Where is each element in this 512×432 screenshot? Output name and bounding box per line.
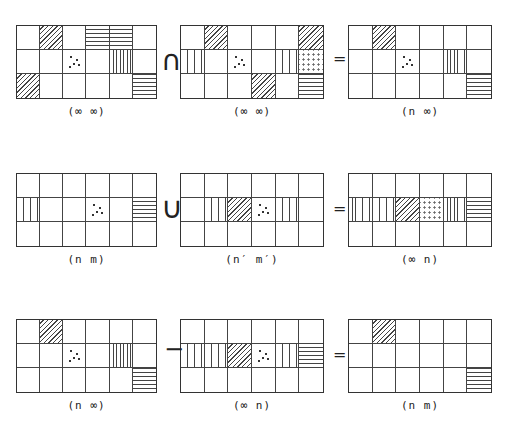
cell-diag-pattern (396, 198, 420, 222)
cell-empty (63, 368, 86, 392)
cell-empty (86, 344, 109, 368)
cell-empty (252, 26, 276, 50)
cell-vert-pattern (276, 198, 300, 222)
cell-empty (349, 174, 373, 198)
cell-empty (17, 50, 40, 74)
set-grid (16, 319, 157, 393)
cell-empty (420, 74, 444, 98)
cell-empty (205, 320, 229, 344)
cell-empty (181, 222, 205, 246)
cell-horiz-pattern (133, 368, 156, 392)
cell-empty (110, 198, 133, 222)
cell-vert-pattern (17, 198, 40, 222)
cell-empty (444, 368, 468, 392)
set-grid (180, 173, 324, 247)
equals-sign: = (333, 49, 346, 68)
cell-empty (110, 368, 133, 392)
cell-empty (373, 222, 397, 246)
cell-dots-pattern (252, 198, 276, 222)
cell-empty (110, 174, 133, 198)
cell-empty (299, 320, 323, 344)
cell-vert-pattern (205, 198, 229, 222)
cell-empty (467, 26, 491, 50)
cell-horiz-pattern (299, 344, 323, 368)
cell-empty (181, 368, 205, 392)
cell-empty (181, 198, 205, 222)
cell-empty (110, 74, 133, 98)
cell-empty (181, 26, 205, 50)
equals-sign: = (333, 345, 346, 364)
set-grid (180, 25, 324, 99)
cell-empty (86, 50, 109, 74)
cell-empty (349, 26, 373, 50)
cell-empty (133, 174, 156, 198)
cell-empty (396, 368, 420, 392)
cell-empty (228, 320, 252, 344)
cell-empty (299, 174, 323, 198)
cell-empty (396, 222, 420, 246)
cell-empty (40, 368, 63, 392)
cell-empty (349, 368, 373, 392)
cell-empty (373, 344, 397, 368)
cell-dots-pattern (252, 344, 276, 368)
cell-empty (444, 174, 468, 198)
grid-label: (∞ ∞) (177, 105, 327, 118)
cell-empty (17, 174, 40, 198)
cell-empty (420, 344, 444, 368)
cell-empty (299, 222, 323, 246)
cell-empty (63, 198, 86, 222)
cell-dots-pattern (228, 50, 252, 74)
grid-label: (∞ n) (345, 253, 495, 266)
cell-empty (444, 74, 468, 98)
cell-empty (40, 174, 63, 198)
cell-empty (86, 174, 109, 198)
cell-empty (110, 320, 133, 344)
set-grid (16, 173, 157, 247)
cell-empty (444, 320, 468, 344)
cell-empty (467, 50, 491, 74)
cell-horiz-pattern (299, 74, 323, 98)
cell-empty (373, 368, 397, 392)
cell-horiz-pattern (467, 368, 491, 392)
cell-empty (181, 320, 205, 344)
cell-empty (40, 198, 63, 222)
cell-horiz-pattern (467, 198, 491, 222)
cell-empty (228, 174, 252, 198)
grid-label: (∞ ∞) (12, 105, 162, 118)
cell-empty (17, 26, 40, 50)
cell-vert-pattern (373, 198, 397, 222)
cell-horiz-pattern (86, 26, 109, 50)
cell-vert-pattern (205, 344, 229, 368)
grid-label: (∞ n) (177, 399, 327, 412)
cell-empty (40, 74, 63, 98)
cell-empty (133, 50, 156, 74)
cell-dots-pattern (396, 50, 420, 74)
cell-empty (17, 368, 40, 392)
cell-empty (133, 222, 156, 246)
cell-vert-pattern (181, 50, 205, 74)
set-grid (16, 25, 157, 99)
set-grid (348, 319, 492, 393)
equals-sign: = (333, 199, 346, 218)
cell-empty (396, 174, 420, 198)
cell-empty (228, 26, 252, 50)
cell-dots-pattern (63, 50, 86, 74)
cell-empty (420, 174, 444, 198)
cell-empty (63, 320, 86, 344)
cell-empty (420, 50, 444, 74)
cell-horiz-pattern (133, 74, 156, 98)
cell-vert-pattern (110, 50, 133, 74)
cell-empty (205, 50, 229, 74)
cell-empty (205, 368, 229, 392)
cell-empty (205, 222, 229, 246)
cell-horiz-pattern (133, 198, 156, 222)
cell-empty (205, 174, 229, 198)
cell-empty (86, 320, 109, 344)
cell-empty (349, 320, 373, 344)
set-grid (348, 25, 492, 99)
cell-empty (252, 50, 276, 74)
cell-empty (299, 368, 323, 392)
set-grid (348, 173, 492, 247)
cell-empty (276, 320, 300, 344)
cell-empty (444, 222, 468, 246)
